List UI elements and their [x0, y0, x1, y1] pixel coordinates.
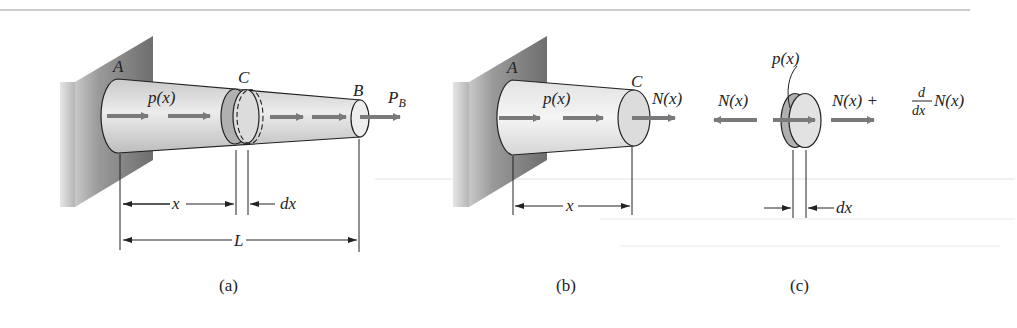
label-a: A: [506, 58, 518, 77]
panel-c: p(x) N(x) N(x) + d dx N(x) dx (c): [714, 49, 965, 295]
dimension-lines: [764, 150, 834, 218]
wall-side: [453, 82, 469, 207]
caption-b: (b): [556, 276, 576, 295]
label-left-force: N(x): [717, 91, 749, 110]
panel-a: A C B p(x) PB x dx L (a): [60, 36, 406, 295]
deriv-denominator: dx: [912, 103, 926, 118]
dim-x: x: [171, 194, 180, 213]
label-load: p(x): [147, 88, 176, 107]
label-end-load: PB: [387, 88, 406, 110]
caption-a: (a): [219, 276, 238, 295]
dim-x: x: [565, 196, 574, 215]
label-load: p(x): [542, 89, 571, 108]
panel-b: A C p(x) N(x) x (b): [453, 36, 683, 295]
label-internal-force: N(x): [651, 89, 683, 108]
wall-side: [60, 82, 75, 207]
dim-L: L: [233, 231, 243, 250]
label-load: p(x): [771, 49, 800, 68]
label-c: C: [238, 68, 250, 87]
label-b: B: [353, 81, 364, 100]
dim-dx: dx: [836, 198, 853, 217]
label-right-force: N(x) +: [831, 91, 878, 110]
label-c: C: [631, 72, 643, 91]
deriv-numerator: d: [918, 85, 926, 100]
dim-dx: dx: [280, 194, 297, 213]
caption-c: (c): [790, 276, 809, 295]
label-right-force-n: N(x): [933, 91, 965, 110]
label-a: A: [112, 57, 124, 76]
figure-canvas: A C B p(x) PB x dx L (a): [0, 0, 1017, 328]
